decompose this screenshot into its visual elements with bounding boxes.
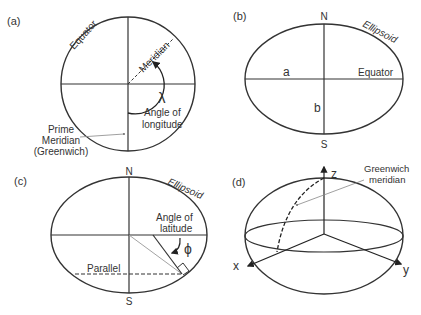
angle-longitude-label-2: longitude bbox=[142, 119, 183, 130]
meridian-label: Meridian bbox=[137, 40, 172, 75]
x-axis-label: x bbox=[233, 259, 239, 273]
semi-major-label: a bbox=[283, 65, 290, 79]
greenwich-leader bbox=[297, 180, 364, 205]
z-axis-label: z bbox=[331, 167, 337, 181]
ellipsoid-label: Ellipsoid bbox=[166, 176, 205, 201]
south-label: S bbox=[126, 296, 133, 307]
phi-symbol: ϕ bbox=[184, 241, 192, 257]
equator-label: Equator bbox=[358, 67, 394, 78]
y-axis-label: y bbox=[403, 263, 409, 277]
greenwich-meridian-curve bbox=[277, 178, 324, 252]
prime-meridian-label-1: Prime bbox=[48, 124, 75, 135]
prime-meridian-label-3: (Greenwich) bbox=[34, 146, 88, 157]
lambda-symbol: λ bbox=[158, 89, 166, 106]
angle-latitude-label-2: latitude bbox=[160, 223, 193, 234]
panel-c-latitude: (c) N S Ellipsoid Angle of latitude ϕ Pa… bbox=[14, 166, 207, 307]
parallel-label: Parallel bbox=[87, 263, 120, 274]
south-label: S bbox=[321, 139, 328, 150]
north-label: N bbox=[320, 11, 327, 22]
semi-minor-label: b bbox=[314, 101, 321, 115]
panel-c-tag: (c) bbox=[14, 175, 27, 187]
greenwich-label-2: meridian bbox=[369, 174, 405, 185]
equator-label: Equator bbox=[67, 17, 99, 51]
panel-b-ellipsoid-axes: (b) N S Ellipsoid a b Equator bbox=[233, 10, 403, 150]
angle-longitude-label-1: Angle of bbox=[144, 107, 181, 118]
panel-a-tag: (a) bbox=[7, 15, 20, 27]
north-label: N bbox=[125, 166, 132, 177]
ellipsoid-label: Ellipsoid bbox=[361, 18, 399, 45]
latitude-angle-arc bbox=[172, 238, 180, 253]
panel-d-tag: (d) bbox=[232, 176, 245, 188]
surface-normal-line bbox=[153, 235, 182, 274]
angle-latitude-label-1: Angle of bbox=[156, 212, 193, 223]
prime-meridian-label-2: Meridian bbox=[42, 135, 80, 146]
prime-meridian-leader bbox=[80, 134, 124, 137]
greenwich-label-1: Greenwich bbox=[364, 163, 409, 174]
x-axis bbox=[248, 234, 324, 266]
panel-d-cartesian: (d) z x y Greenwich meridian bbox=[232, 163, 409, 294]
panel-a-longitude: (a) Equator Meridian λ Angle of longitud… bbox=[7, 15, 195, 157]
geocentric-radius-line bbox=[129, 235, 182, 274]
y-axis bbox=[324, 234, 401, 264]
geodesy-diagram: (a) Equator Meridian λ Angle of longitud… bbox=[0, 0, 421, 315]
panel-b-tag: (b) bbox=[233, 10, 246, 22]
